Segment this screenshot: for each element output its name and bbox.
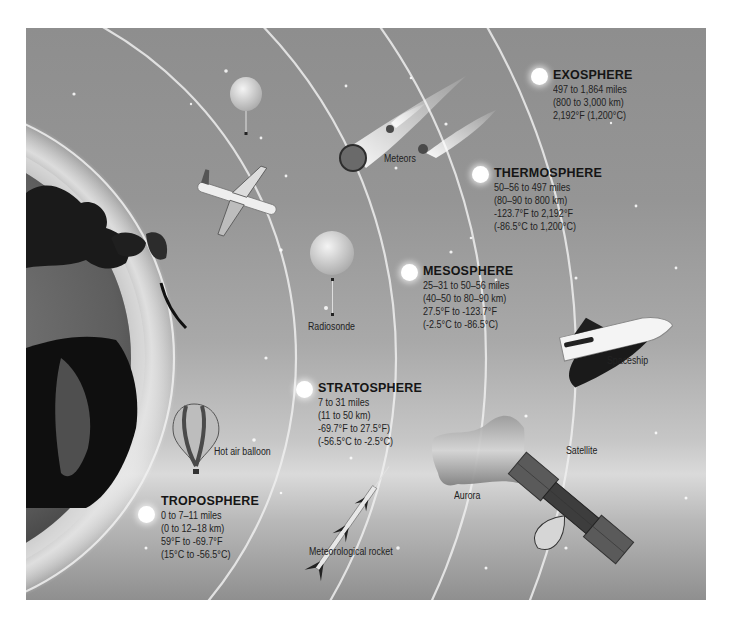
spaceship-label: Spaceship: [607, 355, 648, 366]
thermosphere-title: THERMOSPHERE: [494, 166, 602, 181]
exosphere-label: EXOSPHERE 497 to 1,864 miles (800 to 3,0…: [553, 68, 639, 122]
mesosphere-altitude-km: (40–50 to 80–90 km): [423, 292, 509, 305]
thermosphere-altitude-miles: 50–56 to 497 miles: [494, 181, 587, 194]
exosphere-marker: [531, 68, 548, 85]
meteorological-rocket-label: Meteorological rocket: [309, 546, 393, 557]
radiosonde-label: Radiosonde: [308, 321, 355, 332]
airplane-illustration: [186, 149, 288, 249]
stratosphere-temperature-f: -69.7°F to 27.5°F): [318, 422, 407, 435]
mesosphere-title: MESOSPHERE: [423, 264, 523, 279]
troposphere-title: TROPOSPHERE: [161, 494, 259, 509]
troposphere-temperature-c: (15°C to -56.5°C): [161, 548, 245, 561]
exosphere-altitude-miles: 497 to 1,864 miles: [553, 83, 627, 96]
meteors-label: Meteors: [384, 153, 416, 164]
thermosphere-temperature-c: (-86.5°C to 1,200°C): [494, 220, 587, 233]
troposphere-temperature-f: 59°F to -69.7°F: [161, 535, 245, 548]
mesosphere-temperature-f: 27.5°F to -123.7°F: [423, 305, 509, 318]
stratosphere-title: STRATOSPHERE: [318, 381, 422, 396]
stratosphere-altitude-km: (11 to 50 km): [318, 409, 407, 422]
stratosphere-label: STRATOSPHERE 7 to 31 miles (11 to 50 km)…: [318, 381, 422, 448]
mesosphere-altitude-miles: 25–31 to 50–56 miles: [423, 279, 509, 292]
mesosphere-temperature-c: (-2.5°C to -86.5°C): [423, 318, 509, 331]
troposphere-altitude-km: (0 to 12–18 km): [161, 522, 245, 535]
thermosphere-altitude-km: (80–90 to 800 km): [494, 194, 587, 207]
aurora-label: Aurora: [454, 490, 480, 501]
stratosphere-temperature-c: (-56.5°C to -2.5°C): [318, 435, 407, 448]
troposphere-altitude-miles: 0 to 7–11 miles: [161, 509, 245, 522]
stratosphere-marker: [296, 381, 313, 398]
hot-air-balloon-illustration: [173, 404, 219, 474]
exosphere-title: EXOSPHERE: [553, 68, 639, 83]
atmosphere-diagram: EXOSPHERE 497 to 1,864 miles (800 to 3,0…: [26, 28, 706, 600]
radiosonde-illustration: [310, 231, 354, 316]
troposphere-label: TROPOSPHERE 0 to 7–11 miles (0 to 12–18 …: [161, 494, 259, 561]
hot-air-balloon-label: Hot air balloon: [214, 446, 271, 457]
exosphere-temperature: 2,192°F (1,200°C): [553, 109, 627, 122]
thermosphere-marker: [472, 166, 489, 183]
satellite-label: Satellite: [566, 445, 597, 456]
thermosphere-label: THERMOSPHERE 50–56 to 497 miles (80–90 t…: [494, 166, 602, 233]
stratosphere-altitude-miles: 7 to 31 miles: [318, 396, 407, 409]
mesosphere-label: MESOSPHERE 25–31 to 50–56 miles (40–50 t…: [423, 264, 523, 331]
troposphere-marker: [138, 506, 155, 523]
mesosphere-marker: [401, 264, 418, 281]
exosphere-altitude-km: (800 to 3,000 km): [553, 96, 627, 109]
weather-balloon-illustration: [230, 77, 262, 135]
thermosphere-temperature-f: -123.7°F to 2,192°F: [494, 207, 587, 220]
